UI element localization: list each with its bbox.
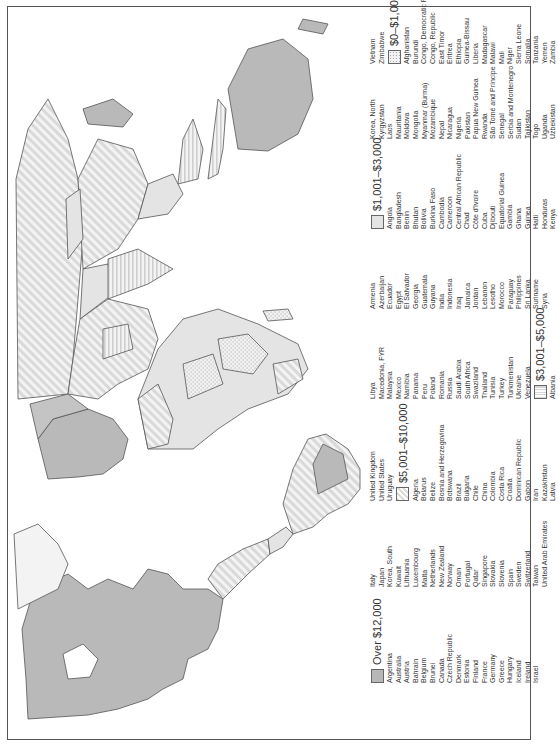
country-item: Spain xyxy=(507,521,516,587)
country-item: Togo xyxy=(532,66,541,139)
country-item: Congo, Republic xyxy=(429,0,438,64)
country-item: Greece xyxy=(498,598,507,683)
world-map-svg xyxy=(8,5,363,739)
country-item: Botswana xyxy=(446,403,455,501)
country-item: Hungary xyxy=(506,598,515,683)
country-item: Jordan xyxy=(472,273,481,309)
country-item: Oman xyxy=(455,521,464,587)
country-item: New Zealand xyxy=(438,521,447,587)
country-item: Switzerland xyxy=(524,521,533,587)
legend-category-3001-5000: $3,001–$5,000 xyxy=(533,308,547,399)
country-item: Romania xyxy=(438,308,447,399)
country-item: Malta xyxy=(421,521,430,587)
country-item: Albania xyxy=(549,308,558,399)
country-item: São Tomé and Príncipe xyxy=(489,66,498,139)
country-item: Morocco xyxy=(498,273,507,309)
country-item: Moldova xyxy=(403,66,412,139)
country-item: Luxembourg xyxy=(412,521,421,587)
swatch-solid-dark xyxy=(371,669,384,683)
india xyxy=(108,249,173,299)
country-item: Syria xyxy=(541,273,550,309)
country-item: Macedonia, FYR xyxy=(378,308,387,399)
legend-category-0-1000: $0–$1,000 xyxy=(387,0,401,64)
country-item: Lithuania xyxy=(403,521,412,587)
country-item: Tunisia xyxy=(489,308,498,399)
country-item: Swaziland xyxy=(472,308,481,399)
country-item: Angola xyxy=(386,138,395,229)
category-label: $1,001–$3,000 xyxy=(371,138,383,211)
country-item: Haiti xyxy=(532,138,541,229)
country-item: China xyxy=(481,403,490,501)
country-item: Austria xyxy=(403,598,412,683)
country-item: Honduras xyxy=(541,138,550,229)
country-item: Estonia xyxy=(463,598,472,683)
country-item: Serbia and Montenegro xyxy=(507,66,516,139)
country-item: Gabon xyxy=(524,403,533,501)
country-item: Burundi xyxy=(412,0,421,64)
central-america xyxy=(268,527,293,554)
country-item: Nepal xyxy=(438,66,447,139)
country-item: Canada xyxy=(438,598,447,683)
country-item: Guatemala xyxy=(421,273,430,309)
country-item: Bangladesh xyxy=(395,138,404,229)
country-item: East Timor xyxy=(438,0,447,64)
country-item: Benin xyxy=(403,138,412,229)
country-item: Guinea-Bissau xyxy=(463,0,472,64)
country-item: Italy xyxy=(369,521,378,587)
legend-category-5001-10000: $5,001–$10,000 xyxy=(396,403,410,501)
country-item: Japan xyxy=(378,521,387,587)
country-item: Bhutan xyxy=(412,138,421,229)
country-item: Argentina xyxy=(386,598,395,683)
country-item: Malawi xyxy=(489,0,498,64)
swatch-solid-light xyxy=(371,215,384,229)
country-item: Russia xyxy=(446,308,455,399)
legend-column-4: Libya Macedonia, FYR Malaysia Mexico Nam… xyxy=(369,308,558,399)
country-item: Czech Republic xyxy=(446,598,455,683)
country-item: Kyrgyzstan xyxy=(378,66,387,139)
country-item: Liberia xyxy=(472,0,481,64)
country-item: Yemen xyxy=(541,0,550,64)
country-item: Chad xyxy=(463,138,472,229)
swatch-diagonal-stripes xyxy=(396,487,409,501)
category-label: $3,001–$5,000 xyxy=(534,308,546,381)
world-map xyxy=(8,5,363,739)
country-item: Mexico xyxy=(395,308,404,399)
country-item: France xyxy=(481,598,490,683)
country-item: Tanzania xyxy=(532,0,541,64)
country-item: Poland xyxy=(429,308,438,399)
country-item: Uzbekistan xyxy=(549,66,558,139)
country-item: Portugal xyxy=(464,521,473,587)
country-item: South Africa xyxy=(464,308,473,399)
legend-column-2: Italy Japan Korea, South Kuwait Lithuani… xyxy=(369,521,549,587)
country-item: Australia xyxy=(395,598,404,683)
country-item: Germany xyxy=(489,598,498,683)
country-item: Indonesia xyxy=(446,273,455,309)
country-item: United States xyxy=(378,403,387,501)
country-item: Iraq xyxy=(455,273,464,309)
country-item: Azerbaijan xyxy=(378,273,387,309)
country-item: Senegal xyxy=(498,66,507,139)
legend-column-1: Over $12,000 Argentina Australia Austria… xyxy=(369,598,541,683)
country-item: Belarus xyxy=(420,403,429,501)
country-item: Algeria xyxy=(412,403,421,501)
country-item: Cambodia xyxy=(438,138,447,229)
country-item: Turkey xyxy=(498,308,507,399)
legend-column-5: Armenia Azerbaijan Ecuador Egypt El Salv… xyxy=(369,273,549,309)
country-item: Guyana xyxy=(429,273,438,309)
country-item: Nicaragua xyxy=(446,66,455,139)
country-item: Jamaica xyxy=(464,273,473,309)
country-item: Korea, North xyxy=(369,66,378,139)
legend-column-6: $1,001–$3,000 Angola Bangladesh Benin Bh… xyxy=(369,138,558,229)
country-item: Rwanda xyxy=(481,66,490,139)
country-item: Malaysia xyxy=(386,308,395,399)
country-item: Uganda xyxy=(541,66,550,139)
country-item: Israel xyxy=(532,598,541,683)
country-item: Dominican Republic xyxy=(515,403,524,501)
australia xyxy=(228,39,313,151)
country-item: Costa Rica xyxy=(498,403,507,501)
legend-column-3: United Kingdom United States Uruguay $5,… xyxy=(369,403,558,501)
country-item: Belize xyxy=(429,403,438,501)
country-item: Chile xyxy=(472,403,481,501)
country-item: Ukraine xyxy=(515,308,524,399)
